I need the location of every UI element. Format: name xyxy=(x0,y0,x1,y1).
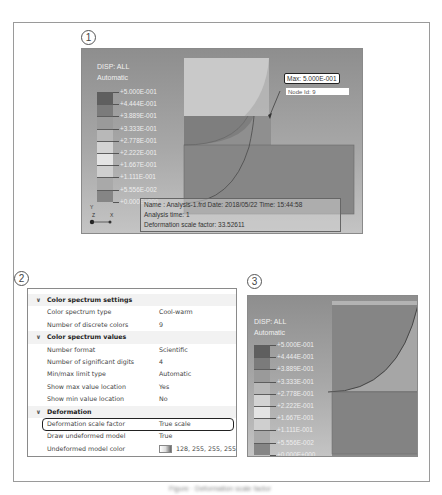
property-key: Number of significant digits xyxy=(47,356,134,368)
figure-caption: Figure · Deformation scale factor xyxy=(130,485,310,494)
property-key: Undeformed model color xyxy=(47,443,125,455)
chevron-down-icon[interactable]: ∨ xyxy=(36,406,41,418)
color-swatch-icon[interactable] xyxy=(159,445,172,453)
property-value[interactable]: 4 xyxy=(159,356,163,368)
property-row[interactable]: Draw undeformed model True xyxy=(28,430,236,442)
property-value[interactable]: Yes xyxy=(159,381,169,393)
property-value[interactable]: 128, 255, 255, 255 xyxy=(159,443,236,455)
property-key: Number format xyxy=(47,344,95,356)
property-value[interactable]: Cool-warm xyxy=(159,306,193,318)
property-row[interactable]: Show max value location Yes xyxy=(28,381,236,393)
section-label: Color spectrum values xyxy=(47,331,126,343)
model-geometry xyxy=(248,296,418,457)
property-row[interactable]: Color spectrum type Cool-warm xyxy=(28,306,236,318)
analysis-time: Analysis time: 1 xyxy=(144,210,337,220)
panel-2-number: 2 xyxy=(14,271,29,286)
section-color-spectrum-settings[interactable]: ∨ Color spectrum settings xyxy=(28,294,236,306)
property-value[interactable]: True xyxy=(159,430,172,442)
section-color-spectrum-values[interactable]: ∨ Color spectrum values xyxy=(28,331,236,343)
property-row[interactable]: Show min value location No xyxy=(28,393,236,405)
property-value[interactable]: 9 xyxy=(159,319,163,331)
section-deformation[interactable]: ∨ Deformation xyxy=(28,406,236,418)
analysis-info-box: Name : Analysis-1.frd Date: 2018/05/22 T… xyxy=(140,198,341,232)
triad-z-label: Z xyxy=(92,212,95,218)
chevron-down-icon[interactable]: ∨ xyxy=(36,331,41,343)
section-label: Deformation xyxy=(47,406,91,418)
node-id-label: Node Id: 9 xyxy=(285,87,350,96)
analysis-name-date-time: Name : Analysis-1.frd Date: 2018/05/22 T… xyxy=(144,200,337,210)
property-row[interactable]: Number format Scientific xyxy=(28,344,236,356)
property-key: Show min value location xyxy=(47,393,124,405)
triad-y-label: Y xyxy=(90,204,93,210)
property-key: Show max value location xyxy=(47,381,126,393)
panel-3-number: 3 xyxy=(247,274,262,289)
property-row[interactable]: Number of discrete colors 9 xyxy=(28,319,236,331)
property-row[interactable]: Min/max limit type Automatic xyxy=(28,368,236,380)
max-value-label: Max: 5.000E-001 xyxy=(284,73,340,84)
highlight-outline xyxy=(42,418,234,431)
color-value-text: 128, 255, 255, 255 xyxy=(176,445,236,452)
property-row[interactable]: Undeformed model color 128, 255, 255, 25… xyxy=(28,443,236,455)
property-row[interactable]: Number of significant digits 4 xyxy=(28,356,236,368)
property-value[interactable]: Scientific xyxy=(159,344,188,356)
chevron-down-icon[interactable]: ∨ xyxy=(36,294,41,306)
property-key: Number of discrete colors xyxy=(47,319,128,331)
panel-1-viewport[interactable]: DISP: ALL Automatic +5.000E-001+4.444E-0… xyxy=(81,48,363,234)
property-value[interactable]: No xyxy=(159,393,168,405)
property-value[interactable]: Automatic xyxy=(159,368,191,380)
deformation-scale-factor-value: Deformation scale factor: 33.52611 xyxy=(144,220,337,230)
property-key: Color spectrum type xyxy=(47,306,111,318)
panel-3-viewport[interactable]: DISP: ALL Automatic +5.000E-001+4.444E-0… xyxy=(247,295,418,457)
property-key: Draw undeformed model xyxy=(47,430,125,442)
panel-1-number: 1 xyxy=(81,30,96,45)
triad-x-label: X xyxy=(110,212,113,218)
section-label: Color spectrum settings xyxy=(47,294,132,306)
property-grid: ∨ Color spectrum settings Color spectrum… xyxy=(27,288,237,457)
property-key: Min/max limit type xyxy=(47,368,106,380)
